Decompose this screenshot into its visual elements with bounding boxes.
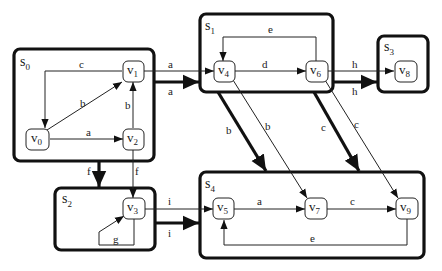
svg-text:i: i: [168, 227, 171, 239]
svg-text:b: b: [226, 124, 232, 136]
svg-text:f: f: [135, 165, 139, 177]
node-v9: v9: [396, 198, 418, 219]
svg-text:c: c: [79, 58, 84, 70]
svg-text:i: i: [168, 195, 171, 207]
edge-s1-s4-b: b: [218, 92, 266, 171]
svg-text:e: e: [310, 232, 315, 244]
node-v0: v0: [26, 129, 49, 150]
edge-s1-s4-c: c: [314, 92, 359, 171]
svg-text:h: h: [352, 85, 358, 97]
svg-text:f: f: [87, 165, 91, 177]
edge-s0-s2-f: f: [87, 161, 99, 187]
node-v5: v5: [213, 198, 234, 219]
node-v2: v2: [123, 129, 144, 150]
edge-s1-s3-h: h: [333, 82, 377, 97]
node-v6: v6: [306, 61, 328, 82]
svg-text:c: c: [350, 195, 355, 207]
node-v1: v1: [123, 61, 144, 82]
svg-text:b: b: [265, 120, 271, 132]
svg-text:a: a: [168, 58, 173, 70]
svg-text:d: d: [262, 58, 268, 70]
svg-text:b: b: [125, 99, 131, 111]
state-hierarchy-diagram: s0 s1 s3 s2 s4 a h f i b c: [0, 0, 442, 271]
edge-s2-s4-i: i: [155, 223, 199, 239]
svg-text:b: b: [80, 97, 86, 109]
svg-text:g: g: [113, 233, 119, 245]
svg-text:a: a: [257, 195, 262, 207]
edge-s0-s1-a: a: [154, 82, 199, 97]
node-v8: v8: [395, 61, 417, 82]
svg-text:a: a: [86, 126, 91, 138]
node-v4: v4: [214, 61, 235, 82]
svg-text:a: a: [168, 85, 173, 97]
svg-text:e: e: [268, 23, 273, 35]
node-v7: v7: [305, 198, 327, 219]
svg-text:c: c: [321, 121, 326, 133]
svg-text:c: c: [354, 118, 359, 130]
node-v3: v3: [123, 198, 145, 219]
svg-text:h: h: [352, 58, 358, 70]
